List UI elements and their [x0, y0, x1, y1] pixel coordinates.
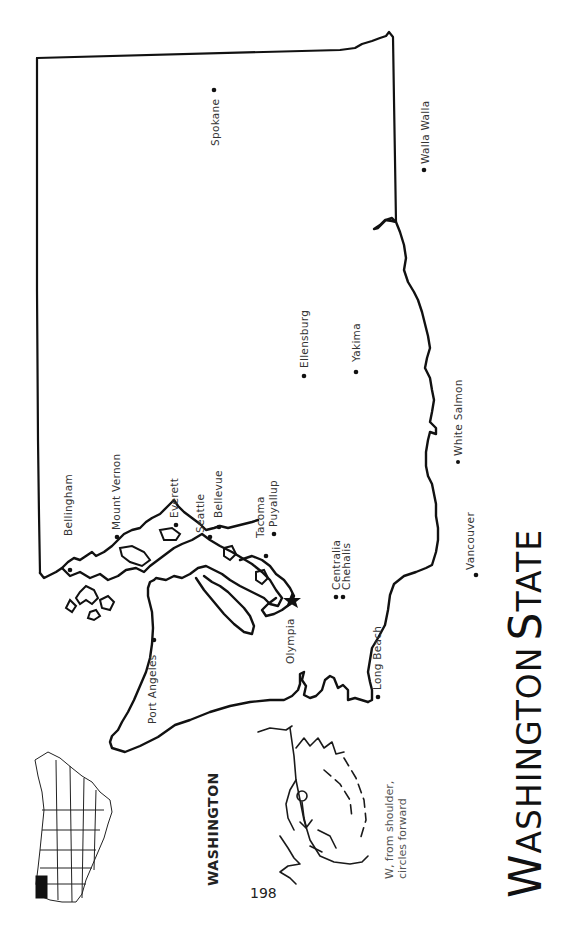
- city-dot-spokane: [212, 88, 217, 93]
- city-label-tacoma: Tacoma: [254, 496, 266, 538]
- city-label-vancouver: Vancouver: [464, 512, 476, 570]
- city-dot-yakima: [354, 370, 359, 375]
- capital-star-icon: [283, 592, 301, 608]
- washington-highlight: [36, 876, 47, 898]
- city-dot-chehalis: [341, 595, 346, 600]
- puget-sound-inner: [62, 534, 282, 606]
- title-rest-tate: TATE: [510, 529, 549, 612]
- city-label-chehalis: Chehalis: [340, 543, 352, 590]
- city-dot-seattle: [208, 535, 213, 540]
- city-label-mount-vernon: Mount Vernon: [110, 453, 122, 530]
- city-label-ellensburg: Ellensburg: [298, 310, 310, 368]
- city-dot-bellingham: [68, 568, 73, 573]
- sign-description-line2: circles forward: [396, 798, 409, 879]
- washington-map: [0, 0, 569, 933]
- city-label-puyallup: Puyallup: [267, 480, 279, 527]
- city-dot-mount-vernon: [115, 535, 120, 540]
- city-label-walla-walla: Walla Walla: [419, 101, 431, 164]
- state-name-label: WASHINGTON: [205, 772, 221, 886]
- sign-description-line1: W, from shoulder,: [383, 781, 396, 879]
- city-dot-everett: [174, 523, 179, 528]
- whidbey-island: [120, 528, 180, 566]
- state-border-north: [37, 58, 40, 573]
- city-dot-bellevue: [217, 525, 222, 530]
- hood-canal: [196, 576, 254, 634]
- city-label-bellingham: Bellingham: [62, 474, 74, 536]
- title-cap-w: W: [500, 853, 551, 898]
- city-label-everett: Everett: [168, 478, 180, 518]
- page-title: WASHINGTON STATE: [500, 529, 551, 898]
- south-sound: [240, 556, 294, 616]
- city-label-port-angeles: Port Angeles: [146, 654, 158, 724]
- title-cap-s: S: [500, 611, 551, 640]
- sign-illustration: [258, 726, 368, 884]
- title-rest-ashington: ASHINGTON: [510, 647, 549, 854]
- city-label-long-beach: Long Beach: [371, 626, 383, 690]
- sign-description: W, from shoulder, circles forward: [383, 781, 409, 879]
- city-dots: [68, 88, 479, 700]
- city-dot-white-salmon: [456, 460, 460, 464]
- city-label-seattle: Seattle: [194, 494, 206, 533]
- city-dot-tacoma: [264, 554, 269, 559]
- city-label-spokane: Spokane: [209, 99, 221, 146]
- city-dot-puyallup: [272, 532, 277, 537]
- us-inset-map: [35, 752, 112, 902]
- city-dot-port-angeles: [152, 638, 157, 643]
- city-dot-centralia: [334, 595, 339, 600]
- city-label-yakima: Yakima: [350, 323, 362, 362]
- city-dot-long-beach: [376, 695, 381, 700]
- city-dot-vancouver: [474, 573, 479, 578]
- page-number: 198: [250, 885, 277, 901]
- san-juan-islands: [66, 586, 114, 620]
- city-label-white-salmon: White Salmon: [452, 379, 464, 456]
- city-dot-ellensburg: [302, 374, 307, 379]
- city-label-olympia: Olympia: [284, 618, 296, 664]
- city-label-bellevue: Bellevue: [212, 470, 224, 518]
- city-dot-walla-walla: [422, 168, 427, 173]
